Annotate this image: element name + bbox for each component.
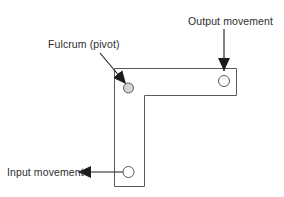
fulcrum-pivot-hole — [124, 83, 134, 93]
output-movement-label: Output movement — [188, 15, 273, 27]
fulcrum-pivot-label: Fulcrum (pivot) — [48, 38, 120, 50]
input-hole — [123, 167, 134, 178]
input-movement-label: Input movement — [7, 166, 84, 178]
bell-crank-lever-diagram: Output movement Fulcrum (pivot) Input mo… — [0, 0, 284, 197]
output-hole — [219, 76, 230, 87]
